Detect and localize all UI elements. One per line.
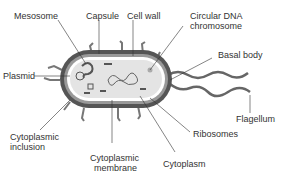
label-flagellum: Flagellum: [236, 114, 275, 124]
label-mesosome: Mesosome: [14, 11, 58, 21]
label-cytoplasmic-membrane-2: membrane: [94, 163, 137, 173]
label-plasmid: Plasmid: [3, 71, 35, 81]
label-cell-wall: Cell wall: [127, 11, 161, 21]
label-cytoplasmic-membrane-1: Cytoplasmic: [90, 153, 139, 163]
label-circular-dna-1: Circular DNA: [190, 11, 243, 21]
flagella: [168, 72, 250, 96]
label-cytoplasmic-inclusion-2: inclusion: [10, 142, 45, 152]
label-ribosomes: Ribosomes: [193, 129, 238, 139]
label-cytoplasm: Cytoplasm: [163, 159, 206, 169]
label-circular-dna-2: chromosome: [190, 21, 242, 31]
label-capsule: Capsule: [86, 11, 119, 21]
label-basal-body: Basal body: [218, 50, 263, 60]
label-cytoplasmic-inclusion-1: Cytoplasmic: [10, 132, 59, 142]
